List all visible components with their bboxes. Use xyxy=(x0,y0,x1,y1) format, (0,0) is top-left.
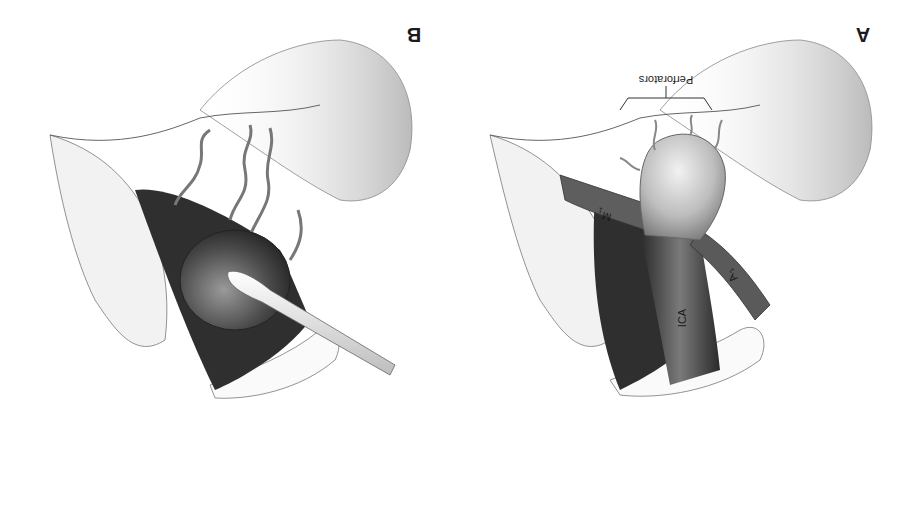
panel-a: Perforators ICA M 1 A 1 A xyxy=(490,24,872,396)
label-ica: ICA xyxy=(676,308,688,327)
panel-letter-b: B xyxy=(407,24,421,46)
surgical-illustration: Perforators ICA M 1 A 1 A B xyxy=(0,0,919,506)
frontal-lobe-tissue-b xyxy=(200,40,412,201)
temporal-tissue-b xyxy=(50,135,167,346)
panel-letter-a: A xyxy=(856,24,870,46)
temporal-tissue xyxy=(490,135,612,346)
aneurysm-dome xyxy=(640,134,725,240)
label-perforators: Perforators xyxy=(638,74,693,86)
panel-b: B xyxy=(50,24,421,398)
